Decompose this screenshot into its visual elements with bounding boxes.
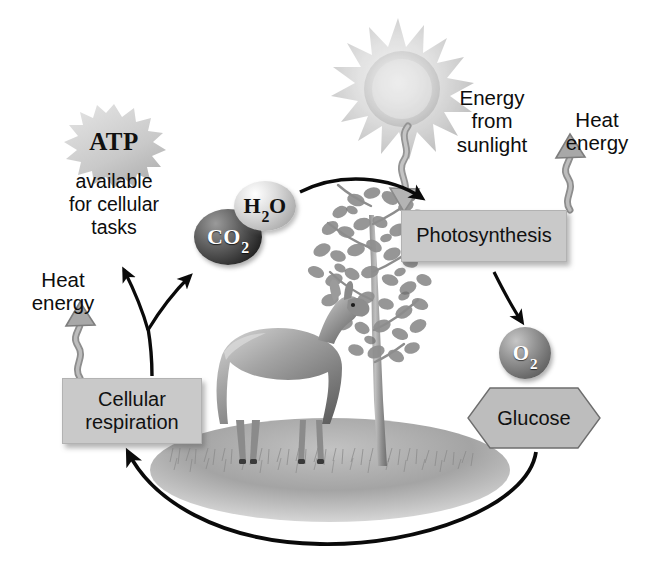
atp-burst: ATP bbox=[62, 108, 166, 176]
heat-energy-label-left: Heat energy bbox=[18, 268, 108, 315]
photosynthesis-respiration-diagram: Energy from sunlight Heat energy Heat en… bbox=[0, 0, 646, 573]
o2-molecule: O2 bbox=[499, 327, 551, 379]
h2o-label: H2O bbox=[243, 193, 286, 219]
atp-label: ATP bbox=[89, 128, 139, 156]
energy-from-sunlight-label: Energy from sunlight bbox=[438, 86, 546, 156]
respiration-to-co2-arrow bbox=[148, 276, 190, 330]
co2-label: CO2 bbox=[207, 224, 249, 250]
o2-label: O2 bbox=[513, 341, 538, 366]
grass-ground bbox=[150, 418, 510, 522]
photosynthesis-to-o2-arrow bbox=[494, 272, 522, 322]
glucose-label: Glucose bbox=[497, 407, 570, 430]
atp-caption-label: available for cellular tasks bbox=[48, 170, 180, 239]
photosynthesis-box: Photosynthesis bbox=[401, 210, 567, 262]
respiration-fork-stem bbox=[148, 328, 152, 376]
cellular-respiration-box: Cellular respiration bbox=[62, 378, 202, 444]
glucose-hexagon: Glucose bbox=[468, 388, 600, 448]
respiration-to-atp-arrow bbox=[124, 270, 148, 330]
h2o-molecule: H2O bbox=[234, 181, 296, 231]
heat-energy-label-right: Heat energy bbox=[556, 108, 638, 155]
